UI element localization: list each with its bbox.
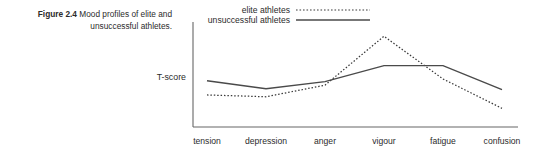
x-axis-tick-anger: anger: [314, 136, 336, 146]
legend-label-unsuccessful-athletes: unsuccessful athletes: [110, 15, 290, 25]
legend-label-elite-athletes: elite athletes: [150, 5, 290, 15]
x-axis-tick-tension: tension: [193, 136, 221, 146]
x-axis-tick-depression: depression: [245, 136, 287, 146]
x-axis-tick-vigour: vigour: [372, 136, 395, 146]
y-axis-label: T-score: [118, 72, 186, 82]
x-axis-tick-confusion: confusion: [484, 136, 521, 146]
series-line-unsuccessful-athletes: [207, 66, 502, 90]
chart-plot-area: elite athletes unsuccessful athletes T-s…: [0, 0, 538, 158]
x-axis-tick-fatigue: fatigue: [430, 136, 456, 146]
figure-container: Figure 2.4 Mood profiles of elite and un…: [0, 0, 538, 158]
